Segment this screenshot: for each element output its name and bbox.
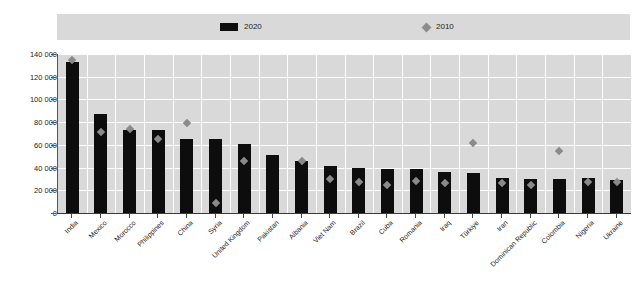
x-axis-tick-mark xyxy=(415,214,416,218)
y-axis-tick-mark xyxy=(51,145,56,146)
bar-viet-nam xyxy=(324,166,337,213)
x-axis-tick-mark xyxy=(472,214,473,218)
gridline-vertical xyxy=(115,54,116,213)
x-axis-tick-mark xyxy=(358,214,359,218)
gridline-vertical xyxy=(230,54,231,213)
x-axis-tick-mark xyxy=(558,214,559,218)
y-axis-tick-mark xyxy=(51,122,56,123)
x-axis-tick-label: Morocco xyxy=(113,219,137,243)
x-axis-tick-mark xyxy=(530,214,531,218)
gridline-vertical xyxy=(516,54,517,213)
gridline-vertical xyxy=(430,54,431,213)
legend-label-2020: 2020 xyxy=(244,20,262,34)
x-axis-tick-label: Ukraine xyxy=(602,219,624,241)
bar-türkiye xyxy=(467,173,480,213)
gridline-vertical xyxy=(345,54,346,213)
gridline-vertical xyxy=(545,54,546,213)
bar-swatch-icon xyxy=(220,23,238,31)
x-axis-tick-mark xyxy=(301,214,302,218)
x-axis-tick-mark xyxy=(100,214,101,218)
x-axis-tick-label: Syria xyxy=(206,219,222,235)
gridline-vertical xyxy=(316,54,317,213)
chart-legend: 2020 2010 xyxy=(57,14,630,40)
gridline-vertical xyxy=(259,54,260,213)
x-axis-tick-mark xyxy=(329,214,330,218)
x-axis-tick-label: Philippines xyxy=(136,219,165,248)
x-axis-tick-label: Mexico xyxy=(87,219,108,240)
bar-romania xyxy=(410,169,423,213)
x-axis-tick-label: Brazil xyxy=(348,219,365,236)
gridline-vertical xyxy=(459,54,460,213)
x-axis-tick-label: Nigeria xyxy=(574,219,595,240)
x-axis-tick-mark xyxy=(157,214,158,218)
x-axis-tick-label: Romania xyxy=(398,219,423,244)
gridline-vertical xyxy=(402,54,403,213)
gridline-vertical xyxy=(574,54,575,213)
gridline-vertical xyxy=(201,54,202,213)
x-axis-tick-label: Iraq xyxy=(438,219,451,232)
x-axis-tick-mark xyxy=(215,214,216,218)
y-axis: 020 00040 00060 00080 000100 000120 0001… xyxy=(0,0,57,282)
legend-item-2010[interactable]: 2010 xyxy=(423,20,454,34)
bar-morocco xyxy=(123,130,136,213)
x-axis-tick-mark xyxy=(616,214,617,218)
x-axis-tick-mark xyxy=(186,214,187,218)
marker-colombia xyxy=(555,146,563,154)
legend-item-2020[interactable]: 2020 xyxy=(220,20,262,34)
x-axis-tick-mark xyxy=(587,214,588,218)
marker-china xyxy=(183,119,191,127)
bar-colombia xyxy=(553,179,566,213)
y-axis-tick-mark xyxy=(51,77,56,78)
x-axis-tick-mark xyxy=(129,214,130,218)
x-axis-tick-label: Albania xyxy=(287,219,308,240)
x-axis-tick-label: Pakistan xyxy=(256,219,280,243)
bar-brazil xyxy=(352,168,365,213)
x-axis-tick-mark xyxy=(71,214,72,218)
chart-container: 2020 2010 020 00040 00060 00080 000100 0… xyxy=(0,0,644,282)
x-axis-tick-mark xyxy=(243,214,244,218)
gridline-vertical xyxy=(144,54,145,213)
x-axis-tick-label: India xyxy=(64,219,80,235)
y-axis-tick-mark xyxy=(51,99,56,100)
x-axis-tick-mark xyxy=(501,214,502,218)
bar-china xyxy=(180,139,193,213)
legend-label-2010: 2010 xyxy=(436,20,454,34)
x-axis-tick-label: China xyxy=(176,219,194,237)
plot-area xyxy=(57,54,631,213)
bar-cuba xyxy=(381,169,394,213)
x-axis-tick-mark xyxy=(272,214,273,218)
x-axis-tick-mark xyxy=(444,214,445,218)
gridline-vertical xyxy=(373,54,374,213)
x-axis-tick-mark xyxy=(386,214,387,218)
bar-india xyxy=(66,62,79,213)
x-axis-tick-label: Cuba xyxy=(378,219,395,236)
x-axis-tick-label: Colombia xyxy=(540,219,566,245)
x-axis-tick-label: Türkiye xyxy=(459,219,480,240)
x-axis-tick-label: Iran xyxy=(496,219,509,232)
y-axis-tick-mark xyxy=(51,190,56,191)
gridline-vertical xyxy=(602,54,603,213)
bar-albania xyxy=(295,161,308,213)
y-axis-tick-mark xyxy=(51,168,56,169)
gridline-vertical xyxy=(488,54,489,213)
gridline-vertical xyxy=(87,54,88,213)
y-axis-tick-mark xyxy=(51,54,56,55)
y-axis-tick-mark xyxy=(51,213,56,214)
x-axis-line xyxy=(57,213,631,214)
gridline-vertical xyxy=(287,54,288,213)
diamond-swatch-icon xyxy=(422,22,432,32)
x-axis-tick-label: Viet Nam xyxy=(312,219,337,244)
gridline-vertical xyxy=(173,54,174,213)
bar-united-kingdom xyxy=(238,144,251,213)
bar-pakistan xyxy=(266,155,279,213)
